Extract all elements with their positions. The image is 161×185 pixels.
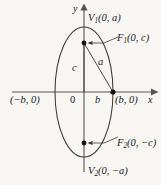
- vertex-bottom-coords: (0, −a): [98, 165, 128, 176]
- focus-bottom-leader-line: [104, 137, 118, 143]
- focus-bottom-point: [82, 141, 87, 146]
- covertex-left-text: (−b, 0): [10, 94, 40, 105]
- focus-top-point: [82, 41, 87, 46]
- vertex-bottom-label: V2(0, −a): [88, 166, 128, 178]
- origin-label: 0: [70, 95, 75, 106]
- covertex-left-label: (−b, 0): [10, 95, 40, 106]
- focus-bottom-arrowhead: [88, 141, 93, 145]
- segment-a-line: [84, 43, 113, 92]
- segment-b-label: b: [95, 95, 100, 106]
- vertex-top-coords: (0, a): [98, 12, 121, 23]
- focus-top-coords: (0, c): [127, 32, 149, 43]
- diagram-canvas: [0, 0, 161, 185]
- focus-bottom-label: F2(0, −c): [117, 138, 156, 150]
- ellipse-diagram: y x V1(0, a) F1(0, c) c a 0 b (−b, 0) (b…: [0, 0, 161, 185]
- covertex-right-label: (b, 0): [115, 95, 138, 106]
- y-axis-arrowhead: [80, 4, 87, 11]
- focus-top-label: F1(0, c): [117, 33, 149, 45]
- vertex-top-label: V1(0, a): [88, 13, 121, 25]
- segment-a-label: a: [98, 57, 103, 68]
- covertex-right-text: (b, 0): [115, 94, 138, 105]
- segment-c-label: c: [72, 63, 77, 74]
- x-axis-label: x: [148, 95, 152, 105]
- focus-top-arrowhead: [88, 41, 93, 45]
- focus-bottom-coords: (0, −c): [127, 137, 156, 148]
- focus-top-leader-line: [104, 37, 118, 43]
- y-axis-label: y: [73, 4, 77, 14]
